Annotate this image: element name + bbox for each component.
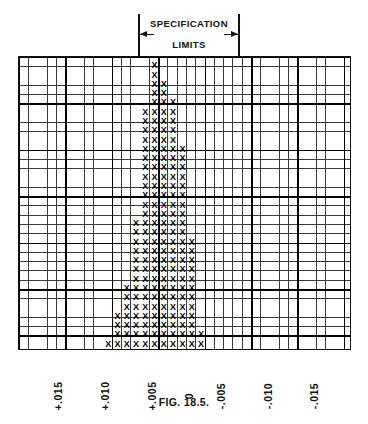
tally-marks-layer: XXXXXXXXXXXXXXXXXXXXXXXXXXXXXXXXXXXXXXXX… <box>19 57 350 349</box>
tally-mark: X <box>122 340 131 349</box>
right-arrow-head-icon <box>231 31 238 37</box>
x-axis-tick-label: -.015 <box>298 352 342 396</box>
left-arrow-head-icon <box>140 31 147 37</box>
tally-mark: X <box>168 340 177 349</box>
tally-mark: X <box>131 340 140 349</box>
tally-mark: X <box>141 340 150 349</box>
tally-mark: X <box>150 340 159 349</box>
tally-mark: X <box>196 340 205 349</box>
x-axis-tick-label: -.010 <box>252 352 296 396</box>
spec-label-line-2: LIMITS <box>138 39 240 50</box>
spec-range-arrows <box>140 31 238 38</box>
x-axis-labels: +.015+.010+.0050-.005-.010-.015 <box>0 352 368 396</box>
tally-mark: X <box>187 340 196 349</box>
spec-label-line-1: SPECIFICATION <box>138 18 240 29</box>
tally-mark: X <box>159 340 168 349</box>
figure-caption: FIG. 18.5. <box>0 396 368 408</box>
tally-histogram-plot: XXXXXXXXXXXXXXXXXXXXXXXXXXXXXXXXXXXXXXXX… <box>18 56 351 350</box>
tally-mark: X <box>178 340 187 349</box>
specification-limits-header: SPECIFICATION LIMITS <box>138 14 240 58</box>
tally-mark: X <box>104 340 113 349</box>
x-axis-tick-label: +.015 <box>42 352 86 396</box>
x-axis-tick-label: -.005 <box>205 352 249 396</box>
tally-mark: X <box>113 340 122 349</box>
x-axis-tick-label: +.010 <box>89 352 133 396</box>
